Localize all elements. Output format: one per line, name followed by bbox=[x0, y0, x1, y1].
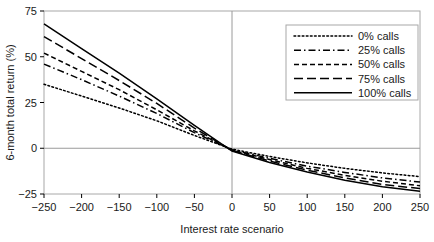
interest-rate-return-chart: −250255075−250−200−150−100−5005010015020… bbox=[0, 0, 434, 242]
y-tick-label: 50 bbox=[25, 51, 37, 63]
x-tick-label: 150 bbox=[336, 201, 354, 213]
y-tick-label: 0 bbox=[31, 142, 37, 154]
x-tick-label: −100 bbox=[144, 201, 169, 213]
y-tick-label: 25 bbox=[25, 97, 37, 109]
x-tick-label: 100 bbox=[298, 201, 316, 213]
x-tick-label: 250 bbox=[411, 201, 429, 213]
x-tick-label: 50 bbox=[263, 201, 275, 213]
y-tick-label: −25 bbox=[18, 188, 37, 200]
x-tick-label: −50 bbox=[185, 201, 204, 213]
x-axis-title: Interest rate scenario bbox=[180, 223, 283, 235]
y-axis-title: 6-month total return (%) bbox=[4, 44, 16, 160]
x-tick-label: −250 bbox=[32, 201, 57, 213]
x-tick-label: 0 bbox=[229, 201, 235, 213]
legend-label-75-calls: 75% calls bbox=[358, 73, 406, 85]
x-tick-label: 200 bbox=[373, 201, 391, 213]
legend-label-25-calls: 25% calls bbox=[358, 44, 406, 56]
chart-container: −250255075−250−200−150−100−5005010015020… bbox=[0, 0, 434, 242]
legend-label-50-calls: 50% calls bbox=[358, 58, 406, 70]
legend-label-100-calls: 100% calls bbox=[358, 87, 412, 99]
y-tick-label: 75 bbox=[25, 5, 37, 17]
legend-label-0-calls: 0% calls bbox=[358, 30, 399, 42]
x-tick-label: −200 bbox=[69, 201, 94, 213]
x-tick-label: −150 bbox=[107, 201, 132, 213]
